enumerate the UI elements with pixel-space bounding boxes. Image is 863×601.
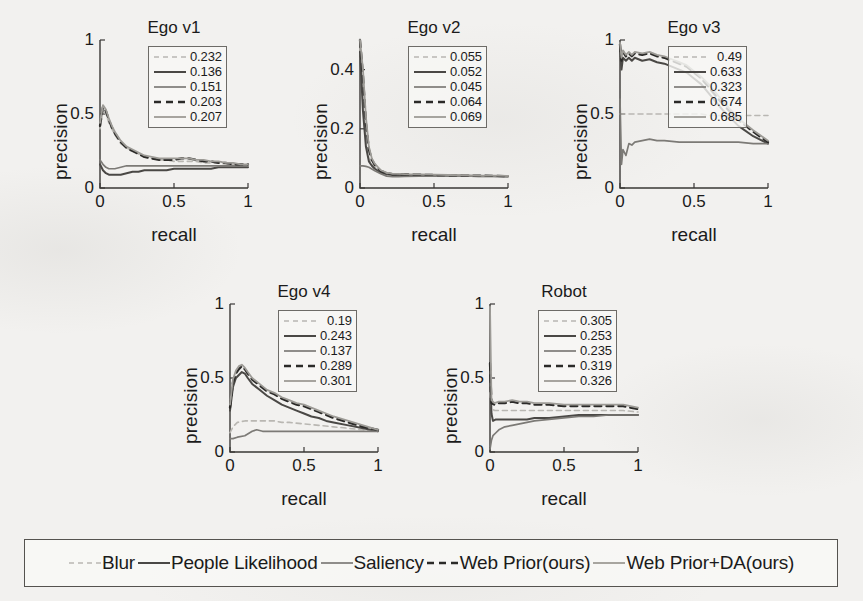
ap-legend-row: 0.064 [413, 94, 482, 109]
chart-panel-robot: Robotprecisionrecall00.5100.510.3050.253… [418, 282, 668, 532]
ap-value: 0.674 [709, 94, 742, 109]
ap-value: 0.136 [189, 64, 222, 79]
ap-value: 0.203 [189, 94, 222, 109]
people-likelihood-line-swatch-icon [153, 66, 187, 78]
ap-value: 0.319 [579, 358, 612, 373]
ap-value: 0.301 [319, 373, 352, 388]
web-prior-ours--line-swatch-icon [673, 96, 707, 108]
ap-legend-box: 0.2320.1360.1510.2030.207 [148, 46, 227, 128]
ap-legend-row: 0.49 [673, 49, 742, 64]
ap-legend-row: 0.19 [283, 313, 352, 328]
saliency-line-swatch-icon [320, 556, 354, 570]
saliency-line-swatch-icon [153, 81, 187, 93]
chart-row-top: Ego v1precisionrecall00.5100.510.2320.13… [0, 18, 863, 278]
ap-legend-row: 0.232 [153, 49, 222, 64]
people-likelihood-line-swatch-icon [543, 330, 577, 342]
ap-value: 0.253 [579, 328, 612, 343]
chart-row-bottom: Ego v4precisionrecall00.5100.510.190.243… [0, 282, 863, 532]
legend-item: Web Prior+DA(ours) [592, 552, 794, 574]
ap-value: 0.305 [579, 313, 612, 328]
ap-value: 0.045 [449, 79, 482, 94]
legend-item: Saliency [320, 552, 424, 574]
legend-item: Web Prior(ours) [426, 552, 591, 574]
ap-value: 0.49 [709, 49, 742, 64]
web-prior-da-ours--line-swatch-icon [592, 556, 626, 570]
ap-value: 0.235 [579, 343, 612, 358]
ap-value: 0.323 [709, 79, 742, 94]
chart-panel-ego-v2: Ego v2precisionrecall00.20.400.510.0550.… [288, 18, 538, 268]
people-likelihood-line-swatch-icon [673, 66, 707, 78]
web-prior-ours--line-swatch-icon [426, 556, 460, 570]
figure-legend: BlurPeople LikelihoodSaliencyWeb Prior(o… [24, 539, 838, 587]
ap-legend-row: 0.674 [673, 94, 742, 109]
saliency-line-swatch-icon [543, 345, 577, 357]
blur-line-swatch-icon [673, 51, 707, 63]
ap-legend-row: 0.685 [673, 109, 742, 124]
ap-value: 0.207 [189, 109, 222, 124]
ap-legend-row: 0.203 [153, 94, 222, 109]
web-prior-ours--line-swatch-icon [153, 96, 187, 108]
ap-legend-row: 0.151 [153, 79, 222, 94]
legend-item-label: Web Prior(ours) [460, 552, 591, 574]
ap-value: 0.055 [449, 49, 482, 64]
ap-legend-row: 0.326 [543, 373, 612, 388]
ap-legend-row: 0.069 [413, 109, 482, 124]
saliency-line-swatch-icon [413, 81, 447, 93]
ap-value: 0.064 [449, 94, 482, 109]
web-prior-da-ours--line-swatch-icon [543, 375, 577, 387]
blur-line-swatch-icon [68, 556, 102, 570]
legend-item-label: People Likelihood [171, 552, 318, 574]
ap-legend-row: 0.323 [673, 79, 742, 94]
ap-legend-row: 0.235 [543, 343, 612, 358]
web-prior-ours--line-swatch-icon [413, 96, 447, 108]
legend-item: Blur [68, 552, 135, 574]
ap-legend-box: 0.0550.0520.0450.0640.069 [408, 46, 487, 128]
ap-legend-row: 0.305 [543, 313, 612, 328]
series-line [230, 430, 378, 439]
ap-legend-row: 0.136 [153, 64, 222, 79]
ap-value: 0.151 [189, 79, 222, 94]
ap-value: 0.685 [709, 109, 742, 124]
ap-legend-row: 0.137 [283, 343, 352, 358]
ap-legend-row: 0.243 [283, 328, 352, 343]
saliency-line-swatch-icon [283, 345, 317, 357]
ap-value: 0.137 [319, 343, 352, 358]
people-likelihood-line-swatch-icon [413, 66, 447, 78]
blur-line-swatch-icon [153, 51, 187, 63]
ap-legend-row: 0.253 [543, 328, 612, 343]
chart-panel-ego-v1: Ego v1precisionrecall00.5100.510.2320.13… [28, 18, 278, 268]
ap-legend-row: 0.045 [413, 79, 482, 94]
ap-legend-row: 0.052 [413, 64, 482, 79]
blur-line-swatch-icon [283, 315, 317, 327]
ap-legend-row: 0.319 [543, 358, 612, 373]
ap-legend-box: 0.490.6330.3230.6740.685 [668, 46, 747, 128]
web-prior-da-ours--line-swatch-icon [153, 111, 187, 123]
chart-panel-ego-v4: Ego v4precisionrecall00.5100.510.190.243… [158, 282, 408, 532]
saliency-line-swatch-icon [673, 81, 707, 93]
ap-value: 0.243 [319, 328, 352, 343]
ap-legend-row: 0.055 [413, 49, 482, 64]
ap-legend-row: 0.633 [673, 64, 742, 79]
ap-value: 0.052 [449, 64, 482, 79]
legend-item-label: Web Prior+DA(ours) [626, 552, 794, 574]
legend-item-label: Blur [102, 552, 135, 574]
ap-value: 0.232 [189, 49, 222, 64]
web-prior-ours--line-swatch-icon [283, 360, 317, 372]
ap-legend-row: 0.289 [283, 358, 352, 373]
web-prior-da-ours--line-swatch-icon [283, 375, 317, 387]
chart-panel-ego-v3: Ego v3precisionrecall00.5100.510.490.633… [548, 18, 798, 268]
ap-value: 0.326 [579, 373, 612, 388]
ap-legend-box: 0.190.2430.1370.2890.301 [278, 310, 357, 392]
ap-legend-box: 0.3050.2530.2350.3190.326 [538, 310, 617, 392]
ap-value: 0.19 [319, 313, 352, 328]
blur-line-swatch-icon [413, 51, 447, 63]
ap-value: 0.633 [709, 64, 742, 79]
legend-item-label: Saliency [354, 552, 424, 574]
web-prior-da-ours--line-swatch-icon [413, 111, 447, 123]
ap-value: 0.069 [449, 109, 482, 124]
web-prior-ours--line-swatch-icon [543, 360, 577, 372]
ap-legend-row: 0.207 [153, 109, 222, 124]
people-likelihood-line-swatch-icon [137, 556, 171, 570]
people-likelihood-line-swatch-icon [283, 330, 317, 342]
legend-item: People Likelihood [137, 552, 318, 574]
